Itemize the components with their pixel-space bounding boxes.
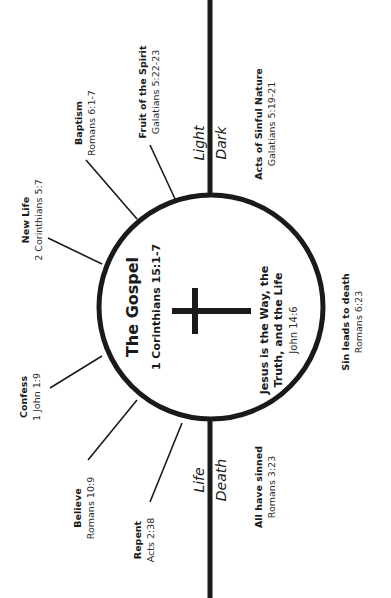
jesus-line1-group: Jesus is the Way, the bbox=[258, 266, 271, 396]
spoke-reference: 2 Corinthians 5:7 bbox=[33, 179, 44, 261]
spoke-reference: 1 John 1:9 bbox=[31, 373, 42, 421]
spoke-line-fruit bbox=[150, 145, 176, 201]
spoke-title: Confess bbox=[18, 376, 29, 418]
jesus-reference: John 14:6 bbox=[288, 306, 299, 354]
spoke-reference: Acts 2:38 bbox=[145, 518, 156, 563]
spoke-reference: Galatians 5:22-23 bbox=[150, 50, 161, 135]
spoke-title: New Life bbox=[20, 197, 31, 243]
spoke-title: Baptism bbox=[73, 101, 84, 145]
spoke-label-baptism: Baptism Romans 6:1-7 bbox=[73, 90, 97, 156]
dark-label-group: Dark bbox=[213, 126, 229, 160]
death-label-group: Death bbox=[213, 459, 229, 501]
label-acts-of-sinful-nature: Acts of Sinful Nature Galatians 5:19-21 bbox=[253, 68, 277, 180]
jesus-line2: Truth, and the Life bbox=[272, 272, 285, 387]
jesus-line2-group: Truth, and the Life bbox=[272, 272, 285, 387]
spoke-reference: Romans 10:9 bbox=[85, 477, 96, 539]
side-reference: Romans 3:23 bbox=[266, 456, 277, 518]
spoke-line-believe bbox=[88, 400, 137, 460]
side-title: Acts of Sinful Nature bbox=[253, 68, 264, 180]
spoke-label-repent: Repent Acts 2:38 bbox=[132, 518, 156, 563]
label-all-have-sinned: All have sinned Romans 3:23 bbox=[253, 446, 277, 528]
spoke-label-fruit: Fruit of the Spirit Galatians 5:22-23 bbox=[137, 45, 161, 138]
life-label: Life bbox=[191, 467, 207, 492]
jesus-reference-group: John 14:6 bbox=[288, 306, 299, 354]
gospel-title: The Gospel bbox=[123, 257, 142, 357]
jesus-line1: Jesus is the Way, the bbox=[258, 266, 271, 396]
spoke-title: Fruit of the Spirit bbox=[137, 45, 148, 138]
spoke-label-believe: Believe Romans 10:9 bbox=[72, 477, 96, 539]
gospel-reference: 1 Corinthians 15:1-7 bbox=[150, 244, 163, 370]
spoke-reference: Romans 6:1-7 bbox=[86, 90, 97, 156]
dark-label: Dark bbox=[213, 126, 229, 160]
spoke-title: Believe bbox=[72, 488, 83, 527]
spoke-line-repent bbox=[150, 423, 182, 502]
light-label: Light bbox=[191, 125, 207, 160]
side-reference: Romans 6:23 bbox=[353, 291, 364, 353]
side-title: All have sinned bbox=[253, 446, 264, 528]
gospel-diagram: The Gospel 1 Corinthians 15:1-7 Jesus is… bbox=[0, 0, 391, 598]
life-label-group: Life bbox=[191, 467, 207, 492]
death-label: Death bbox=[213, 459, 229, 501]
spoke-title: Repent bbox=[132, 520, 143, 559]
side-title: Sin leads to death bbox=[340, 273, 351, 371]
gospel-reference-group: 1 Corinthians 15:1-7 bbox=[150, 244, 163, 370]
spoke-line-confess bbox=[50, 356, 102, 388]
spoke-label-confess: Confess 1 John 1:9 bbox=[18, 373, 42, 421]
gospel-title-group: The Gospel bbox=[123, 257, 142, 357]
spoke-label-new-life: New Life 2 Corinthians 5:7 bbox=[20, 179, 44, 261]
label-sin-leads-to-death: Sin leads to death Romans 6:23 bbox=[340, 273, 364, 371]
spoke-line-new-life bbox=[48, 238, 102, 264]
light-label-group: Light bbox=[191, 125, 207, 160]
side-reference: Galatians 5:19-21 bbox=[266, 82, 277, 167]
spoke-line-baptism bbox=[86, 160, 137, 219]
